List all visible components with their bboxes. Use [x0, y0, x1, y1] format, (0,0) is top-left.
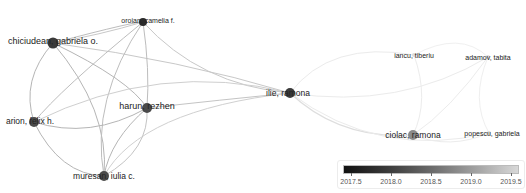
node-label-ilie[interactable]: ilie, ramona	[266, 89, 310, 98]
edge	[143, 22, 148, 108]
legend-tick-label: 2018.0	[380, 178, 401, 185]
node-label-chiciudean[interactable]: chiciudean, gabriela o.	[8, 37, 98, 46]
legend-tick-label: 2018.5	[420, 178, 441, 185]
legend-tick-label: 2019.5	[500, 178, 521, 185]
legend-tick-label: 2019.0	[460, 178, 481, 185]
node-label-iancu[interactable]: iancu, tiberiu	[394, 52, 434, 59]
legend-tick-label: 2017.5	[340, 178, 361, 185]
year-color-legend: 2017.52018.02018.52019.02019.5	[337, 160, 525, 189]
legend-tick-mark	[471, 173, 472, 176]
legend-tick-mark	[391, 173, 392, 176]
node-label-muresan[interactable]: muresan, iulia c.	[73, 172, 135, 181]
edge	[53, 43, 147, 108]
legend-tick-mark	[351, 173, 352, 176]
edge	[413, 57, 488, 135]
node-label-adamov[interactable]: adamov, tabita	[465, 54, 510, 61]
edge	[290, 57, 488, 97]
edge-layer	[30, 22, 489, 176]
edge	[413, 55, 422, 135]
node-label-ciolac[interactable]: ciolac, ramona	[385, 131, 440, 140]
edge	[34, 122, 104, 176]
edge	[479, 57, 489, 133]
edge	[30, 43, 53, 122]
node-label-popescu[interactable]: popescu, gabriela	[464, 130, 519, 137]
node-label-harun[interactable]: harun, rezhen	[119, 102, 175, 111]
node-label-arion[interactable]: arion, felix h.	[6, 117, 54, 126]
legend-tick-mark	[431, 173, 432, 176]
node-label-oroian[interactable]: oroian, camelia f.	[121, 17, 174, 24]
legend-tick-mark	[511, 173, 512, 176]
